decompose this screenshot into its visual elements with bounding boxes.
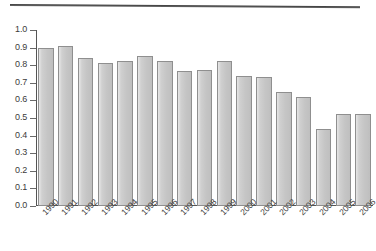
- bar[interactable]: [316, 129, 331, 206]
- y-axis-tick-label: 0.2: [15, 165, 27, 176]
- bar[interactable]: [276, 92, 291, 206]
- y-axis-tick-label: 0.5: [15, 112, 27, 123]
- bar[interactable]: [38, 48, 53, 206]
- y-axis-tick: 0.0: [0, 206, 36, 207]
- bar[interactable]: [58, 46, 73, 206]
- x-axis-labels: 1990199119921993199419951996199719981999…: [36, 206, 373, 251]
- bars-layer: [36, 30, 373, 206]
- y-axis-tick-label: 1.0: [15, 24, 27, 35]
- bar[interactable]: [256, 77, 271, 206]
- bar[interactable]: [137, 56, 152, 206]
- y-axis-tick: 0.3: [0, 153, 36, 154]
- bar[interactable]: [117, 61, 132, 206]
- bar[interactable]: [355, 114, 370, 206]
- bar[interactable]: [296, 97, 311, 206]
- bar[interactable]: [98, 63, 113, 206]
- y-axis-tick-label: 0.3: [15, 147, 27, 158]
- y-axis-tick: 0.7: [0, 83, 36, 84]
- y-axis-tick: 0.4: [0, 136, 36, 137]
- bar[interactable]: [336, 114, 351, 206]
- y-axis-tick-label: 0.1: [15, 182, 27, 193]
- bar[interactable]: [78, 58, 93, 206]
- y-axis-tick: 0.2: [0, 171, 36, 172]
- y-axis-tick: 0.1: [0, 188, 36, 189]
- bar-chart-figure: 1.00.90.80.70.60.50.40.30.20.10.0 199019…: [0, 0, 376, 251]
- bar[interactable]: [157, 61, 172, 206]
- y-axis-tick: 1.0: [0, 30, 36, 31]
- y-axis-tick: 0.6: [0, 100, 36, 101]
- y-axis-tick: 0.5: [0, 118, 36, 119]
- bar[interactable]: [217, 61, 232, 206]
- y-axis-tick-label: 0.4: [15, 130, 27, 141]
- header-rule-divider: [10, 4, 360, 8]
- y-axis-tick: 0.9: [0, 48, 36, 49]
- bar[interactable]: [197, 70, 212, 206]
- y-axis-tick-label: 0.9: [15, 42, 27, 53]
- y-axis-tick-label: 0.7: [15, 77, 27, 88]
- bar[interactable]: [177, 71, 192, 206]
- bar[interactable]: [236, 76, 251, 206]
- y-axis-tick-label: 0.0: [15, 200, 27, 211]
- y-axis-tick-label: 0.6: [15, 94, 27, 105]
- y-axis-tick: 0.8: [0, 65, 36, 66]
- y-axis-tick-label: 0.8: [15, 59, 27, 70]
